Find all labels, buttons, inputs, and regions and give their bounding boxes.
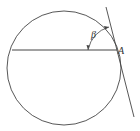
point-a-label: A: [117, 45, 125, 56]
circle: [7, 11, 121, 125]
geometry-diagram: β A: [0, 0, 140, 131]
angle-label: β: [90, 29, 96, 40]
line-through-a: [106, 7, 134, 117]
